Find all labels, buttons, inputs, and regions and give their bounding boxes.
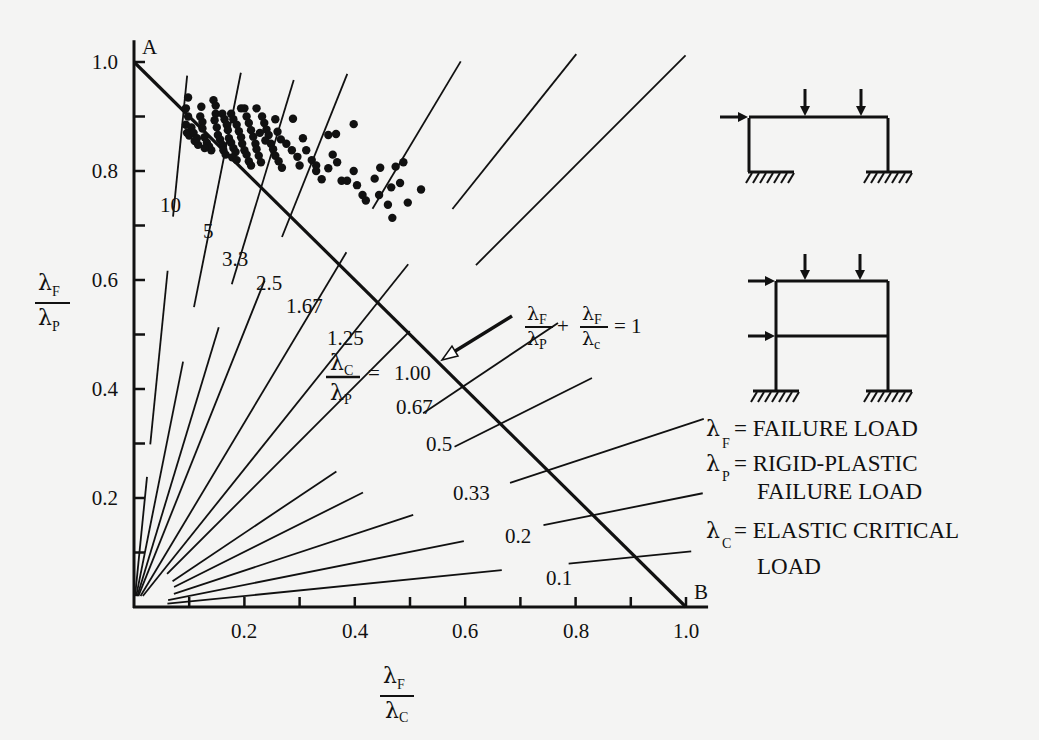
legend-symbol: λ — [706, 451, 720, 476]
x-tick-label: 0.4 — [342, 619, 369, 643]
x-axis-label-den-sub: C — [399, 710, 408, 725]
y-axis-label-numerator: λ — [38, 270, 52, 295]
data-point — [232, 156, 240, 164]
data-point — [349, 120, 357, 128]
data-point — [375, 191, 383, 199]
legend-text: = FAILURE LOAD — [734, 416, 918, 441]
point-b-label: B — [694, 580, 708, 604]
legend-sub: F — [722, 436, 730, 451]
data-point — [252, 104, 260, 112]
x-axis-label-denominator: λ — [385, 698, 399, 723]
data-point — [289, 114, 297, 122]
data-point — [273, 128, 281, 136]
legend-sub: C — [722, 536, 731, 551]
y-axis-label-denominator: λ — [38, 305, 52, 330]
y-tick-label: 0.8 — [92, 159, 118, 183]
data-point — [343, 177, 351, 185]
data-point — [261, 136, 269, 144]
data-point — [299, 134, 307, 142]
ratio-prefix-numerator: λ — [330, 350, 344, 375]
ratio-prefix-denominator: λ — [330, 380, 344, 405]
ratio-label: 1.00 — [394, 361, 431, 385]
data-point — [288, 146, 296, 154]
y-axis-label-num-sub: F — [52, 284, 60, 299]
x-tick-label: 0.6 — [452, 619, 478, 643]
formula-plus: + — [557, 314, 569, 338]
formula-lambda: λ — [582, 327, 594, 349]
data-point — [387, 183, 395, 191]
point-a-label: A — [142, 35, 158, 59]
data-point — [384, 201, 392, 209]
data-point — [245, 119, 253, 127]
paper-background — [0, 0, 1039, 740]
ratio-label: 1.25 — [327, 326, 364, 350]
data-point — [247, 161, 255, 169]
data-point — [312, 161, 320, 169]
data-point — [211, 101, 219, 109]
x-axis-label-numerator: λ — [383, 663, 397, 688]
formula-lambda: λ — [527, 302, 539, 324]
data-point — [332, 130, 340, 138]
data-point — [184, 112, 192, 120]
data-point — [193, 134, 201, 142]
data-point — [404, 198, 412, 206]
formula-lambda: λ — [582, 302, 594, 324]
ratio-prefix-den-sub: P — [344, 392, 352, 407]
data-point — [256, 129, 264, 137]
formula-sub: c — [594, 337, 600, 352]
data-point — [317, 175, 325, 183]
data-point — [399, 158, 407, 166]
data-point — [333, 158, 341, 166]
data-point — [224, 126, 232, 134]
legend-text: = ELASTIC CRITICAL — [734, 518, 959, 543]
legend-symbol: λ — [706, 518, 720, 543]
x-axis-label-num-sub: F — [397, 677, 405, 692]
data-point — [391, 162, 399, 170]
data-point — [388, 214, 396, 222]
legend-text: FAILURE LOAD — [757, 479, 922, 504]
ratio-label: 3.3 — [222, 247, 248, 271]
data-point — [329, 150, 337, 158]
data-point — [295, 161, 303, 169]
data-point — [353, 181, 361, 189]
ratio-label: 5 — [203, 219, 214, 243]
ratio-equals: = — [368, 361, 380, 385]
data-point — [257, 158, 265, 166]
y-tick-label: 1.0 — [92, 50, 118, 74]
ratio-label: 0.67 — [396, 395, 433, 419]
formula-sub: F — [539, 312, 547, 327]
y-axis-label-den-sub: P — [52, 319, 60, 334]
legend-symbol: λ — [706, 416, 720, 441]
ratio-label: 0.33 — [453, 481, 490, 505]
data-point — [293, 153, 301, 161]
data-point — [240, 104, 248, 112]
data-point — [197, 102, 205, 110]
data-point — [198, 124, 206, 132]
formula-equals: = 1 — [614, 314, 642, 338]
data-point — [282, 140, 290, 148]
data-point — [184, 93, 192, 101]
ratio-label: 10 — [160, 193, 181, 217]
ratio-label: 0.2 — [505, 524, 531, 548]
data-point — [278, 164, 286, 172]
ratio-label: 0.1 — [546, 566, 572, 590]
data-point — [213, 123, 221, 131]
data-point — [324, 131, 332, 139]
data-point — [417, 185, 425, 193]
data-point — [362, 196, 370, 204]
data-point — [210, 116, 218, 124]
data-point — [302, 146, 310, 154]
x-tick-label: 0.8 — [563, 619, 589, 643]
x-tick-label: 1.0 — [673, 619, 699, 643]
data-point — [200, 144, 208, 152]
formula-sub: P — [539, 337, 547, 352]
y-tick-label: 0.6 — [92, 268, 118, 292]
ratio-label: 2.5 — [256, 271, 282, 295]
data-point — [271, 115, 279, 123]
data-point — [182, 104, 190, 112]
y-tick-label: 0.2 — [92, 486, 118, 510]
x-tick-label: 0.2 — [231, 619, 257, 643]
legend-text: LOAD — [757, 554, 821, 579]
formula-sub: F — [594, 312, 602, 327]
ratio-label: 1.67 — [286, 294, 323, 318]
